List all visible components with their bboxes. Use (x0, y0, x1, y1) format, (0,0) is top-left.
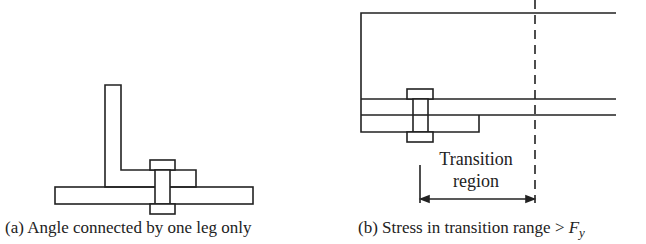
arrowhead-left (421, 196, 429, 202)
figure-a-drawing (55, 85, 253, 214)
transition-label-line2: region (416, 170, 536, 192)
diagram-canvas (0, 0, 646, 244)
bolt-head (407, 89, 433, 99)
caption-a: (a) Angle connected by one leg only (5, 218, 251, 238)
bolt-shank (155, 170, 170, 204)
angle-section (105, 85, 196, 187)
member-outline (361, 13, 616, 132)
transition-label-line1: Transition (416, 148, 536, 170)
bolt-nut (407, 132, 433, 142)
caption-b-text: (b) Stress in transition range > (358, 218, 569, 237)
transition-label: Transition region (416, 148, 536, 192)
arrowhead-right (526, 196, 534, 202)
gusset-plate (55, 187, 253, 204)
caption-b: (b) Stress in transition range > Fy (358, 218, 585, 238)
bolt-nut (150, 204, 175, 214)
bolt-head (150, 160, 175, 170)
caption-b-subscript: y (579, 225, 585, 240)
caption-b-symbol: F (569, 218, 579, 237)
